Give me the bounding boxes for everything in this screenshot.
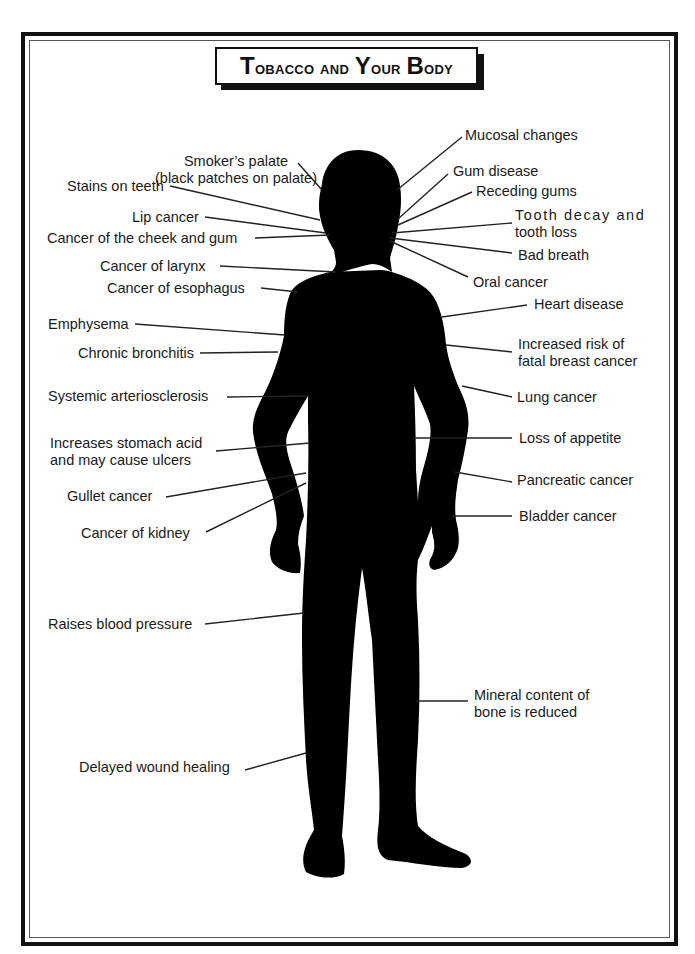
label-emphysema: Emphysema [48,316,129,333]
line-pancreatic [455,472,512,482]
line-blood-pressure [205,613,304,624]
label-larynx: Cancer of larynx [100,258,206,275]
silhouette-head [319,150,401,276]
label-line: fatal breast cancer [518,353,637,370]
label-kidney: Cancer of kidney [81,525,190,542]
label-breast: Increased risk of fatal breast cancer [518,336,637,370]
label-wound-healing: Delayed wound healing [79,759,230,776]
line-larynx [220,266,336,272]
label-line: Smoker’s palate [146,153,326,170]
label-bronchitis: Chronic bronchitis [78,345,194,362]
silhouette-body [253,270,471,878]
line-emphysema [135,324,285,335]
label-line: and may cause ulcers [50,452,202,469]
label-heart: Heart disease [534,296,623,313]
line-gum-disease [398,174,448,219]
line-bad-breath [390,238,512,253]
label-line: tooth loss [515,224,645,241]
label-line: Tooth decay and [515,207,645,224]
label-stomach-acid: Increases stomach acid and may cause ulc… [50,435,202,469]
label-mucosal: Mucosal changes [465,127,578,144]
label-bladder: Bladder cancer [519,508,617,525]
label-arteriosclerosis: Systemic arteriosclerosis [48,388,208,405]
label-smokers-palate: Smoker’s palate (black patches on palate… [146,153,326,187]
label-line: Mineral content of [474,687,589,704]
label-gullet: Gullet cancer [67,488,152,505]
human-silhouette [253,150,471,878]
label-line: Increased risk of [518,336,637,353]
label-receding-gums: Receding gums [476,183,577,200]
label-bone: Mineral content of bone is reduced [474,687,589,721]
label-appetite: Loss of appetite [519,430,621,447]
line-lung [462,386,512,397]
line-tooth-decay [392,223,512,233]
line-bronchitis [200,352,278,353]
label-lung: Lung cancer [517,389,597,406]
label-oral-cancer: Oral cancer [473,274,548,291]
label-esophagus: Cancer of esophagus [107,280,245,297]
label-tooth-decay: Tooth decay and tooth loss [515,207,645,241]
line-heart [442,305,527,317]
label-blood-pressure: Raises blood pressure [48,616,192,633]
label-stains-teeth: Stains on teeth [67,178,164,195]
label-gum-disease: Gum disease [453,163,538,180]
label-bad-breath: Bad breath [518,247,589,264]
line-breast [446,345,512,352]
line-cheek-gum [255,235,330,238]
label-line: (black patches on palate) [146,170,326,187]
label-pancreatic: Pancreatic cancer [517,472,633,489]
label-cheek-gum: Cancer of the cheek and gum [47,230,237,247]
label-line: bone is reduced [474,704,589,721]
line-wound-healing [245,753,306,770]
line-arteriosclerosis [227,396,310,397]
label-line: Increases stomach acid [50,435,202,452]
label-lip-cancer: Lip cancer [132,209,199,226]
